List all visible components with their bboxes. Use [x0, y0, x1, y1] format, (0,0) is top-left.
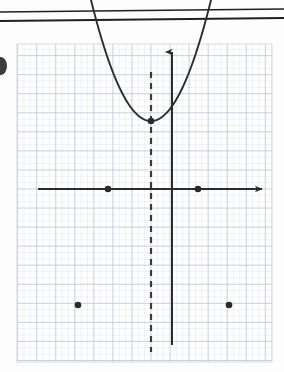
- point-right-root: [195, 186, 202, 193]
- point-vertex: [148, 118, 155, 125]
- point-left-root: [105, 186, 112, 193]
- figure-root: Downward parabola with marked vertex, ro…: [0, 0, 284, 372]
- point-left-lower-point: [75, 302, 82, 309]
- graph-paper: [17, 44, 272, 362]
- parabola-graph-svg: [0, 0, 284, 372]
- point-right-lower-point: [226, 302, 233, 309]
